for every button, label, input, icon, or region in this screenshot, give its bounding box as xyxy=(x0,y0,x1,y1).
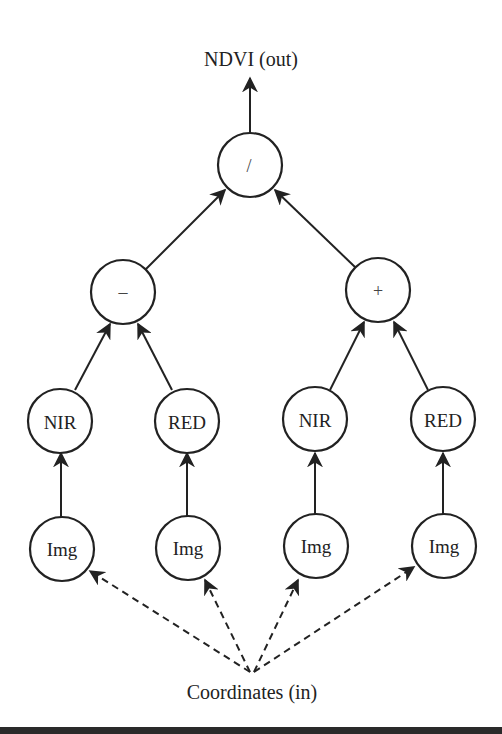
ndvi-computation-graph: NDVI (out) / – + NIR RED NIR RE xyxy=(0,0,502,734)
edge-coords-to-img4 xyxy=(254,567,414,672)
node-red-2: RED xyxy=(411,387,475,451)
edge-nir2-to-plus xyxy=(330,322,364,390)
node-red-1-label: RED xyxy=(168,412,206,433)
node-plus: + xyxy=(346,258,410,322)
node-plus-label: + xyxy=(373,281,383,301)
edge-nir1-to-minus xyxy=(75,324,110,390)
edge-coords-to-img1 xyxy=(90,571,250,672)
node-nir-2-label: NIR xyxy=(299,410,332,431)
node-divide: / xyxy=(218,133,282,197)
output-label: NDVI (out) xyxy=(204,48,298,71)
edge-red2-to-plus xyxy=(394,322,428,390)
node-nir-2: NIR xyxy=(283,387,347,451)
node-nir-1-label: NIR xyxy=(44,412,77,433)
bottom-rule xyxy=(0,727,502,734)
edge-plus-to-div xyxy=(275,190,355,267)
node-img-4-label: Img xyxy=(429,536,460,557)
node-minus-label: – xyxy=(118,282,129,302)
node-nir-1: NIR xyxy=(28,389,92,453)
node-img-4: Img xyxy=(412,514,476,578)
node-img-2-label: Img xyxy=(173,538,204,559)
node-minus: – xyxy=(91,260,155,324)
node-img-3-label: Img xyxy=(301,536,332,557)
node-img-2: Img xyxy=(156,516,220,580)
node-img-3: Img xyxy=(284,514,348,578)
edge-minus-to-div xyxy=(146,190,225,269)
node-red-2-label: RED xyxy=(424,410,462,431)
input-label: Coordinates (in) xyxy=(187,681,318,704)
node-img-1: Img xyxy=(30,517,94,581)
node-red-1: RED xyxy=(155,389,219,453)
edge-red1-to-minus xyxy=(138,324,172,390)
node-divide-label: / xyxy=(246,156,251,176)
node-img-1-label: Img xyxy=(47,539,78,560)
